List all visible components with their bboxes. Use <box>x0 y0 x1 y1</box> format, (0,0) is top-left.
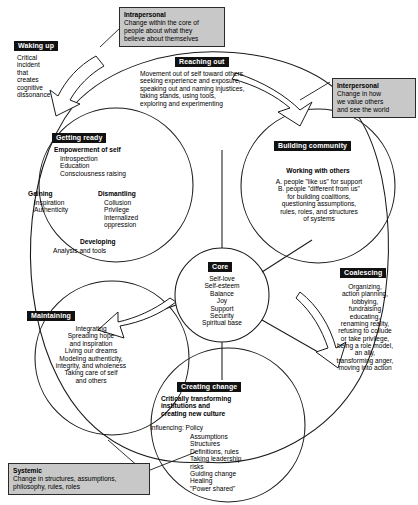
spoke-body-coalescing: Organizing, action planning, lobbying, f… <box>314 283 416 372</box>
petal-heading-getting-ready: Empowerment of self <box>54 146 174 153</box>
callout-interpersonal: Interpersonal Change in how we value oth… <box>332 78 416 118</box>
banner-building-community: Building community <box>274 141 351 151</box>
spoke-lower-right <box>262 320 318 352</box>
leader-intrapersonal <box>100 28 120 47</box>
callout-systemic-heading: Systemic <box>13 467 145 475</box>
callout-intrapersonal-body: Change within the core of people about w… <box>124 19 220 43</box>
petal-heading-creating-change: Critically transforming institutions and… <box>161 395 283 417</box>
banner-creating-change: Creating change <box>177 382 241 392</box>
callout-systemic-body: Change in structures, assumptions, philo… <box>13 475 145 491</box>
spoke-body-waking-up: Critical incident that creates cognitive… <box>17 54 77 98</box>
callout-interpersonal-heading: Interpersonal <box>337 82 411 90</box>
petal-subheading-developing: Developing <box>80 238 116 245</box>
petal-body-getting-ready: Introspection Education Consciousness ra… <box>60 155 180 177</box>
diagram-canvas: Intrapersonal Change within the core of … <box>0 0 418 505</box>
spoke-body-reaching-out: Movement out of self toward others seeki… <box>140 70 312 107</box>
banner-coalescing: Coalescing <box>340 268 386 278</box>
petal-sublist-developing: Analysis and tools <box>53 247 157 254</box>
spoke-left <box>118 305 176 326</box>
petal-sublist-dismantling: Collusion Privilege Internalized oppress… <box>104 199 174 229</box>
banner-getting-ready: Getting ready <box>52 133 106 143</box>
petal-body-lead-creating-change: Influencing: Policy <box>150 424 270 431</box>
core-items: Self-love Self-esteem Balance Joy Suppor… <box>177 275 267 327</box>
petal-sublist-gaining: Inspiration Authenticity <box>34 199 94 214</box>
spoke-upper-right <box>262 240 312 272</box>
petal-body-maintaining: Integrating Spreading hope and inspirati… <box>16 325 166 384</box>
callout-systemic: Systemic Change in structures, assumptio… <box>8 463 150 495</box>
petal-circle-getting-ready <box>39 108 193 262</box>
petal-subheading-gaining: Gaining <box>28 190 53 197</box>
banner-waking-up: Waking up <box>14 41 58 51</box>
banner-maintaining: Maintaining <box>27 311 75 321</box>
petal-heading-building-community: Working with others <box>258 167 378 174</box>
callout-intrapersonal-heading: Intrapersonal <box>124 11 220 19</box>
petal-body-creating-change: Assumptions Structures Definitions, rule… <box>190 433 300 492</box>
callout-intrapersonal: Intrapersonal Change within the core of … <box>119 7 225 47</box>
petal-body-building-community: A. people "like us" for support B. peopl… <box>248 178 390 222</box>
banner-core: Core <box>208 262 232 272</box>
banner-reaching-out: Reaching out <box>175 57 229 67</box>
petal-subheading-dismantling: Dismantling <box>98 190 136 197</box>
callout-interpersonal-body: Change in how we value others and see th… <box>337 90 411 114</box>
